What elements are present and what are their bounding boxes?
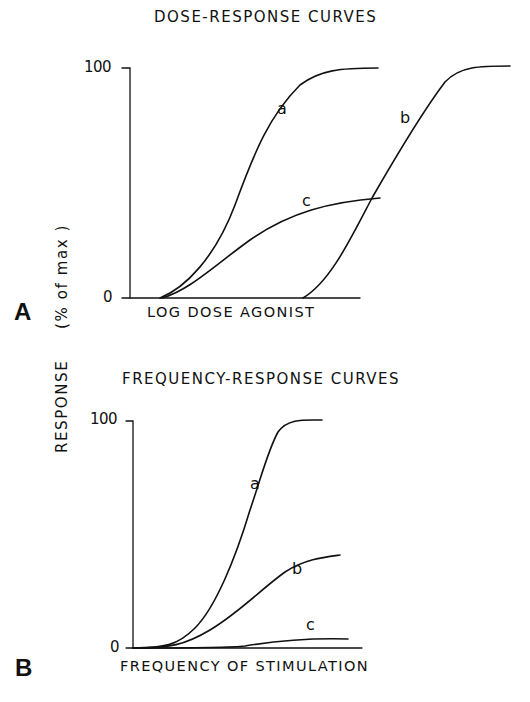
panel-b-curve-label-a: a — [250, 474, 260, 493]
panel-a-curve-c — [162, 198, 380, 298]
panel-a-y-axis — [122, 68, 130, 298]
panel-a-curve-label-c: c — [302, 191, 311, 210]
panel-b-curve-a — [133, 420, 322, 648]
panel-a-curve-a — [160, 68, 378, 298]
panel-b-curve-label-b: b — [292, 559, 302, 578]
panel-a-curve-label-b: b — [400, 108, 410, 127]
panel-b-curve-label-c: c — [306, 615, 315, 634]
panel-b-curve-b — [133, 555, 340, 648]
panel-a-curve-b — [303, 66, 510, 298]
panel-b-y-axis — [126, 421, 133, 648]
panel-a-curve-label-a: a — [277, 99, 287, 118]
chart-canvas — [0, 0, 530, 702]
